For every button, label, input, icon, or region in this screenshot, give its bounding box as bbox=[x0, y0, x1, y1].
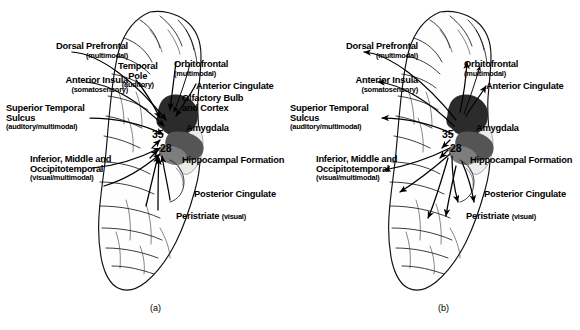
area-number-28: 28 bbox=[160, 142, 172, 154]
label-posterior-cingulate: Posterior Cingulate bbox=[484, 190, 566, 200]
label-temporal-pole: Temporal Pole (auditory) bbox=[118, 62, 158, 89]
label-dorsal-prefrontal: Dorsal Prefrontal (multimodal) bbox=[18, 42, 128, 59]
label-anterior-cingulate: Anterior Cingulate bbox=[196, 82, 274, 92]
area-number-28: 28 bbox=[450, 142, 462, 154]
label-orbitofrontal: Orbitofrontal (multimodal) bbox=[464, 60, 518, 77]
label-orbitofrontal: Orbitofrontal (multimodal) bbox=[174, 60, 228, 77]
label-olfactory-bulb-and-cortex: Olfactory Bulb and Cortex bbox=[182, 94, 243, 113]
label-hippocampal-formation: Hippocampal Formation bbox=[182, 156, 284, 166]
label-anterior-insula: Anterior Insula (somatosensory) bbox=[10, 76, 128, 93]
label-superior-temporal-sulcus: Superior Temporal Sulcus (auditory/multi… bbox=[290, 104, 369, 131]
label-amygdala: Amygdala bbox=[476, 124, 519, 134]
caption-b: (b) bbox=[438, 303, 449, 313]
label-hippocampal-formation: Hippocampal Formation bbox=[470, 156, 572, 166]
label-inferior-middle-occipitotemporal: Inferior, Middle and Occipitotemporal (v… bbox=[30, 155, 111, 182]
label-posterior-cingulate: Posterior Cingulate bbox=[194, 190, 276, 200]
caption-a: (a) bbox=[150, 303, 161, 313]
panel-b: Dorsal Prefrontal (multimodal) Anterior … bbox=[290, 0, 580, 330]
label-anterior-cingulate: Anterior Cingulate bbox=[486, 82, 564, 92]
label-peristriate: Peristriate (visual) bbox=[176, 212, 246, 222]
label-inferior-middle-occipitotemporal: Inferior, Middle and Occipitotemporal (v… bbox=[316, 155, 397, 182]
panel-a: Dorsal Prefrontal (multimodal) Anterior … bbox=[0, 0, 290, 330]
label-peristriate: Peristriate (visual) bbox=[466, 212, 536, 222]
label-amygdala: Amygdala bbox=[186, 124, 229, 134]
area-number-35: 35 bbox=[152, 128, 164, 140]
brain-connectivity-figure: Dorsal Prefrontal (multimodal) Anterior … bbox=[0, 0, 580, 330]
label-dorsal-prefrontal: Dorsal Prefrontal (multimodal) bbox=[308, 42, 418, 59]
label-superior-temporal-sulcus: Superior Temporal Sulcus (auditory/multi… bbox=[6, 104, 85, 131]
area-number-35: 35 bbox=[442, 128, 454, 140]
label-anterior-insula: Anterior Insula (somatosensory) bbox=[300, 76, 418, 93]
